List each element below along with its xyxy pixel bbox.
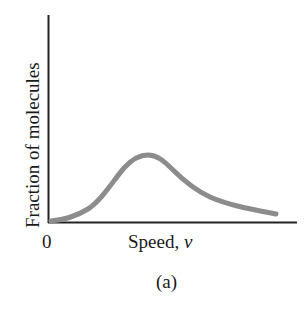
y-axis-label: Fraction of molecules: [22, 62, 43, 228]
figure-caption: (a): [156, 271, 177, 293]
chart-svg: Fraction of molecules 0 Speed, v (a): [0, 0, 308, 310]
distribution-curve: [51, 155, 276, 221]
x-axis-label-text: Speed,: [128, 231, 184, 252]
x-tick-zero: 0: [42, 231, 52, 252]
x-axis-label-variable: v: [184, 231, 193, 252]
figure-panel-a: Fraction of molecules 0 Speed, v (a): [0, 0, 308, 310]
x-axis-label: Speed, v: [128, 231, 193, 252]
